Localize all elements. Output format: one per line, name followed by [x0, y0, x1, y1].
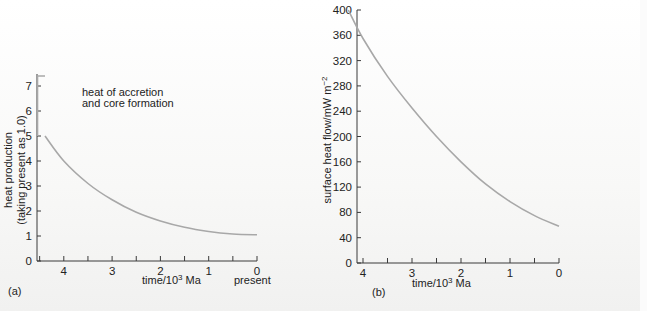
- y-axis-title-base: surface heat flow/mW m: [321, 86, 333, 204]
- y-tick-label: 0: [26, 255, 32, 267]
- y-tick-label: 200: [333, 131, 352, 143]
- x-tick-label: 1: [507, 267, 513, 279]
- y-tick-label: 240: [333, 105, 352, 117]
- x-tick-label: 3: [109, 265, 115, 277]
- panel-label: (a): [8, 285, 21, 297]
- figure: 0123456743210heat production(taking pres…: [0, 0, 647, 311]
- x-tick-label: 1: [205, 265, 211, 277]
- annotation-accretion: and core formation: [82, 97, 174, 109]
- y-tick-label: 120: [333, 181, 352, 193]
- x-axis-title: time/103 Ma: [412, 276, 472, 289]
- data-curve-heat-of-accretion-and-core-formation: [38, 76, 46, 136]
- y-axis-title-sup: −2: [320, 76, 329, 86]
- y-tick-label: 1: [26, 230, 32, 242]
- x-tick-label: 0: [556, 267, 562, 279]
- y-tick-label: 160: [333, 156, 352, 168]
- x-axis-title: time/103 Ma: [142, 273, 202, 286]
- x-axis-title-base: time/10: [412, 277, 448, 289]
- y-tick-label: 6: [26, 105, 32, 117]
- y-tick-label: 7: [26, 80, 32, 92]
- present-label: present: [234, 274, 271, 286]
- chart-panel-a: 0123456743210heat production(taking pres…: [2, 74, 271, 297]
- panel-label: (b): [372, 286, 385, 298]
- y-tick-label: 320: [333, 55, 352, 67]
- chart-panel-b: 0408012016020024028032036040043210surfac…: [320, 4, 562, 298]
- y-tick-label: 0: [346, 257, 352, 269]
- data-curve-radiogenic-heat-production: [45, 136, 257, 235]
- x-tick-label: 4: [360, 267, 367, 279]
- y-tick-label: 80: [339, 206, 352, 218]
- x-axis-title-tail: Ma: [183, 274, 202, 286]
- x-axis-title-base: time/10: [142, 274, 178, 286]
- data-curve-surface-heat-flow: [348, 10, 559, 226]
- x-axis-title-tail: Ma: [453, 277, 472, 289]
- y-axis-title: surface heat flow/mW m−2: [320, 76, 333, 204]
- x-tick-label: 4: [61, 265, 68, 277]
- y-axis-title-line: (taking present as 1.0): [15, 115, 27, 224]
- y-tick-label: 40: [339, 232, 352, 244]
- y-axis-title-line: heat production: [2, 132, 14, 208]
- y-tick-label: 360: [333, 29, 352, 41]
- y-tick-label: 280: [333, 80, 352, 92]
